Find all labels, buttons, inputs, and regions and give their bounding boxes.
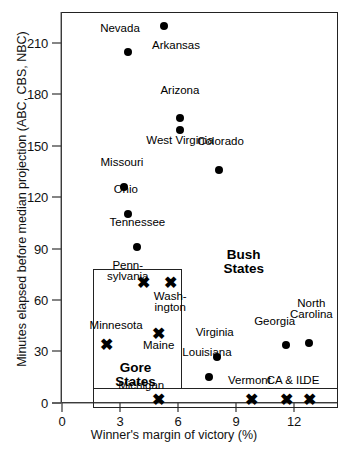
x-tick-12: 12 — [284, 414, 304, 429]
x-tick-9: 9 — [226, 414, 246, 429]
data-point-label: Arkansas — [152, 40, 200, 51]
x-tick-3: 3 — [110, 414, 130, 429]
data-point-label: Maine — [143, 340, 174, 351]
data-point-label: Missouri — [101, 157, 144, 168]
data-point-label: North Carolina — [290, 298, 333, 320]
data-point-label: Penn- sylvania — [107, 260, 149, 282]
data-point-label: Tennessee — [110, 217, 166, 228]
data-point-circle — [124, 48, 132, 56]
data-point-label: CA & IL — [267, 375, 306, 386]
data-point-cross: ✖ — [164, 275, 177, 291]
data-point-label: Ohio — [114, 184, 138, 195]
x-axis-title: Winner's margin of victory (%) — [0, 428, 348, 442]
gore-states-label: Gore States — [115, 361, 156, 389]
chart-canvas: 210 180 150 120 90 60 30 0 0 3 6 9 12 Wi… — [0, 0, 348, 450]
data-point-label: Nevada — [100, 23, 140, 34]
data-point-circle — [215, 166, 223, 174]
data-point-circle — [176, 114, 184, 122]
data-point-cross: ✖ — [303, 392, 316, 408]
data-point-circle — [282, 341, 290, 349]
data-point-circle — [205, 373, 213, 381]
data-point-cross: ✖ — [152, 392, 165, 408]
data-point-label: Minnesota — [90, 320, 143, 331]
y-axis-title: Minutes elapsed before median projection… — [15, 0, 29, 399]
data-point-label: Arizona — [160, 85, 199, 96]
data-point-label: Wash- ington — [154, 291, 187, 313]
data-point-label: Colorado — [197, 136, 244, 147]
data-point-cross: ✖ — [100, 337, 113, 353]
data-point-circle — [305, 339, 313, 347]
data-point-label: Louisiana — [182, 347, 231, 358]
x-tick-6: 6 — [168, 414, 188, 429]
data-point-cross: ✖ — [280, 392, 293, 408]
data-point-circle — [160, 22, 168, 30]
data-point-cross: ✖ — [245, 392, 258, 408]
data-point-circle — [133, 243, 141, 251]
x-tick-0: 0 — [52, 414, 72, 429]
data-point-label: Vermont — [228, 375, 271, 386]
data-point-label: DE — [303, 375, 319, 386]
data-point-label: Virginia — [196, 327, 234, 338]
bush-states-label: Bush States — [223, 248, 264, 276]
